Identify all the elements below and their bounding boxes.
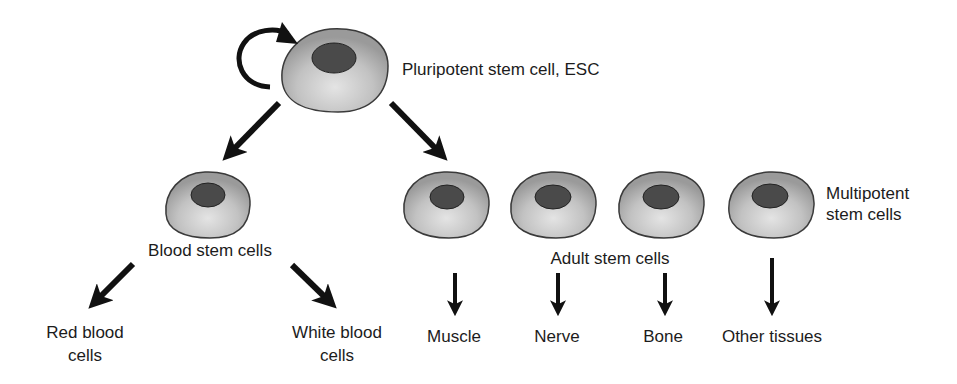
- multipotent-label-line2: stem cells: [826, 204, 902, 225]
- arrow-to-red-blood-icon: [96, 264, 133, 301]
- nerve-label: Nerve: [534, 326, 579, 347]
- blood-stem-cell: [166, 172, 250, 238]
- multipotent-stem-cell: [729, 172, 814, 238]
- adult-stem-cell-3: [619, 172, 704, 238]
- red-blood-label-line2: cells: [68, 345, 102, 366]
- arrow-to-blood-stem-icon: [230, 103, 279, 153]
- white-blood-label-line2: cells: [320, 345, 354, 366]
- red-blood-label-line1: Red blood: [46, 322, 124, 343]
- muscle-label: Muscle: [427, 326, 481, 347]
- white-blood-label-line1: White blood: [292, 322, 382, 343]
- multipotent-label-line1: Multipotent: [826, 183, 909, 204]
- adult-stem-cell-1: [404, 172, 489, 238]
- arrow-to-white-blood-icon: [292, 265, 329, 301]
- arrow-to-adult-stem-icon: [391, 103, 440, 153]
- blood-stem-label: Blood stem cells: [148, 240, 272, 261]
- other-tissues-label: Other tissues: [722, 326, 822, 347]
- bone-label: Bone: [643, 326, 683, 347]
- pluripotent-label: Pluripotent stem cell, ESC: [402, 59, 599, 80]
- pluripotent-cell: [282, 29, 388, 112]
- adult-stem-label: Adult stem cells: [550, 248, 669, 269]
- adult-stem-cell-2: [511, 172, 596, 238]
